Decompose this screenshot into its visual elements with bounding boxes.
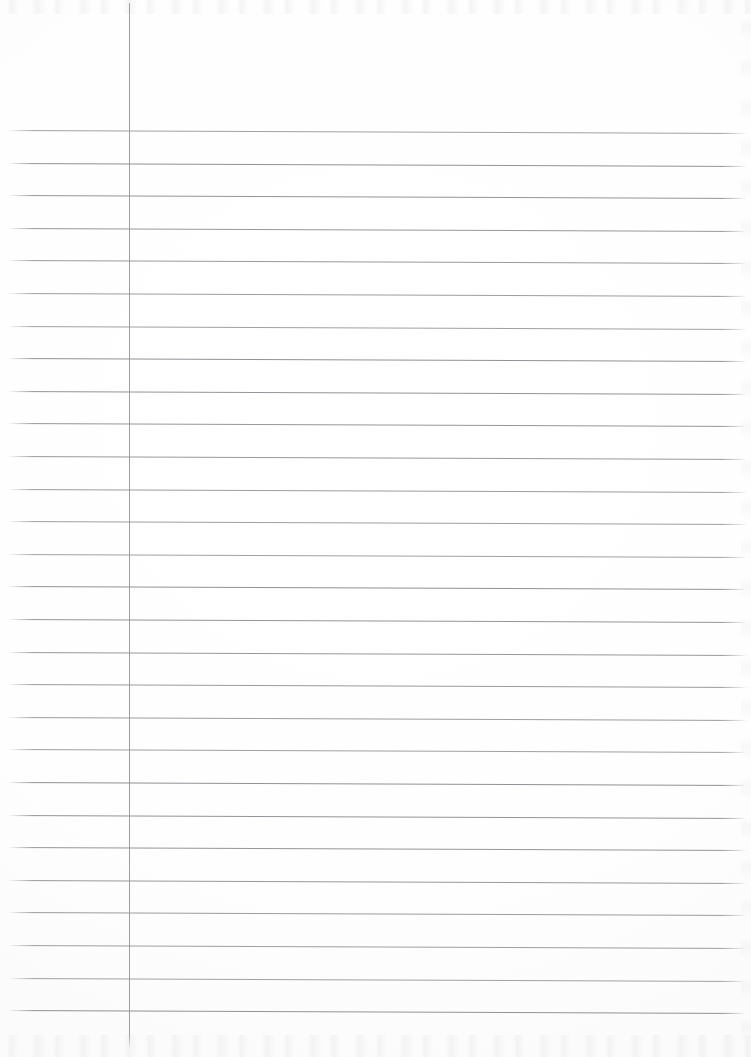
writing-area bbox=[131, 130, 747, 1012]
left-margin-column bbox=[0, 0, 129, 1057]
header-area bbox=[131, 0, 747, 130]
left-margin-rule bbox=[129, 3, 130, 1050]
notebook-page bbox=[0, 0, 751, 1057]
